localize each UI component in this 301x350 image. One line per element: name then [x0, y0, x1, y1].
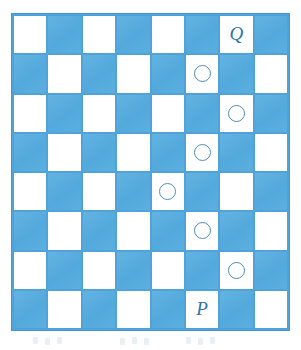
board-square[interactable]	[83, 212, 115, 249]
board-square[interactable]	[14, 212, 46, 249]
board-square[interactable]	[186, 173, 218, 210]
board-square[interactable]	[117, 291, 149, 328]
board-square[interactable]	[48, 55, 80, 92]
board-square[interactable]	[220, 134, 252, 171]
circle-marker-icon	[159, 183, 176, 200]
scan-artifact-mark	[132, 337, 137, 344]
board-square[interactable]	[255, 95, 287, 132]
board-square[interactable]	[83, 55, 115, 92]
board-square[interactable]	[48, 252, 80, 289]
square-label: P	[196, 299, 208, 318]
board-square[interactable]	[255, 252, 287, 289]
board-square[interactable]	[14, 134, 46, 171]
board-square[interactable]	[220, 173, 252, 210]
scan-artifact-mark	[198, 338, 203, 345]
board-square[interactable]	[255, 16, 287, 53]
board-square[interactable]	[255, 55, 287, 92]
board-square[interactable]	[14, 55, 46, 92]
board-square[interactable]	[48, 212, 80, 249]
board-square[interactable]	[152, 212, 184, 249]
board-square[interactable]	[220, 252, 252, 289]
board-square[interactable]	[220, 291, 252, 328]
circle-marker-icon	[194, 144, 211, 161]
board-square[interactable]	[83, 16, 115, 53]
board-square[interactable]	[83, 134, 115, 171]
board-square[interactable]	[220, 55, 252, 92]
board-square[interactable]	[152, 95, 184, 132]
board-square[interactable]	[186, 55, 218, 92]
board-square[interactable]	[117, 55, 149, 92]
board-square[interactable]	[152, 134, 184, 171]
board-square[interactable]	[14, 95, 46, 132]
board-square[interactable]	[117, 173, 149, 210]
board-square[interactable]: Q	[220, 16, 252, 53]
board-square[interactable]	[48, 16, 80, 53]
board-square[interactable]	[255, 212, 287, 249]
scan-artifact-mark	[45, 338, 50, 345]
board-square[interactable]	[48, 173, 80, 210]
board-square[interactable]	[83, 173, 115, 210]
board-square[interactable]	[117, 134, 149, 171]
board-square[interactable]	[117, 252, 149, 289]
board-square[interactable]	[255, 134, 287, 171]
board-square[interactable]	[220, 212, 252, 249]
board-square[interactable]	[186, 95, 218, 132]
board-square[interactable]: P	[186, 291, 218, 328]
board-square[interactable]	[83, 95, 115, 132]
board-square[interactable]	[186, 212, 218, 249]
scan-artifact-mark	[33, 337, 38, 344]
scan-artifact-mark	[57, 337, 62, 344]
board-square[interactable]	[152, 173, 184, 210]
board-square[interactable]	[83, 291, 115, 328]
board-square[interactable]	[48, 291, 80, 328]
circle-marker-icon	[228, 105, 245, 122]
board-square[interactable]	[152, 252, 184, 289]
scan-artifacts	[0, 333, 301, 350]
board-square[interactable]	[117, 212, 149, 249]
scan-artifact-mark	[186, 337, 191, 344]
board-square[interactable]	[186, 16, 218, 53]
square-label: Q	[230, 24, 244, 43]
checkerboard-grid: QP	[11, 13, 290, 331]
board-square[interactable]	[117, 95, 149, 132]
board-square[interactable]	[152, 55, 184, 92]
board-square[interactable]	[48, 134, 80, 171]
circle-marker-icon	[194, 222, 211, 239]
board-square[interactable]	[152, 291, 184, 328]
board-square[interactable]	[186, 252, 218, 289]
circle-marker-icon	[228, 262, 245, 279]
board-square[interactable]	[14, 16, 46, 53]
board-square[interactable]	[14, 291, 46, 328]
scan-artifact-mark	[210, 337, 215, 344]
checkerboard-figure: QP	[0, 0, 301, 350]
board-square[interactable]	[14, 252, 46, 289]
board-square[interactable]	[48, 95, 80, 132]
top-margin	[0, 0, 301, 12]
board-square[interactable]	[152, 16, 184, 53]
circle-marker-icon	[194, 65, 211, 82]
board-square[interactable]	[83, 252, 115, 289]
board-square[interactable]	[255, 173, 287, 210]
scan-artifact-mark	[120, 338, 125, 345]
board-square[interactable]	[220, 95, 252, 132]
board-square[interactable]	[117, 16, 149, 53]
board-square[interactable]	[186, 134, 218, 171]
board-square[interactable]	[14, 173, 46, 210]
scan-artifact-mark	[144, 338, 149, 345]
board-square[interactable]	[255, 291, 287, 328]
